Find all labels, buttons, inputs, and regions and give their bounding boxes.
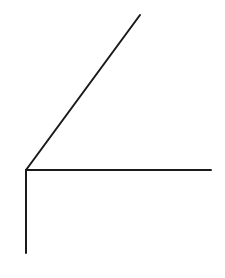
diagram-canvas [0, 0, 225, 278]
angle-diagram [0, 0, 225, 278]
diagonal-ray [26, 15, 140, 170]
